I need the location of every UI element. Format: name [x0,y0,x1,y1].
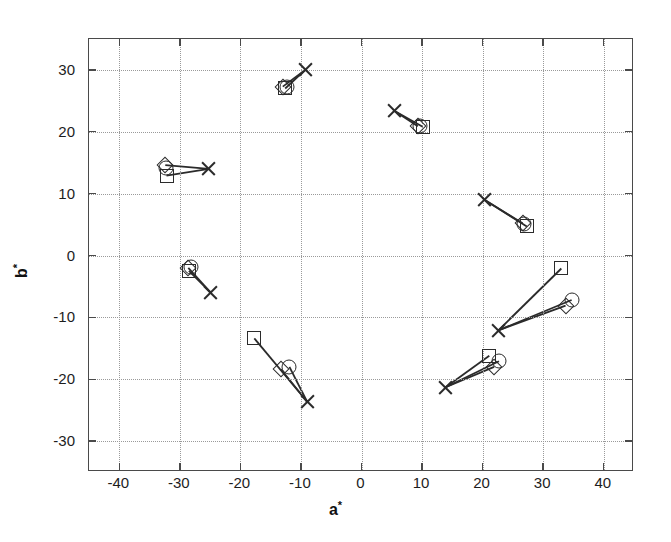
y-axis-tick [89,193,96,194]
data-point-x [202,284,219,301]
y-axis-tick [89,131,96,132]
x-axis-tick [421,463,422,470]
x-axis-tick [603,39,604,46]
x-tick-label: -20 [229,474,251,491]
y-axis-tick [625,193,632,194]
data-point-x [200,160,217,177]
data-point-square [247,331,261,345]
data-point-x [299,393,316,410]
y-tick-label: 0 [67,246,75,263]
x-axis-tick [361,39,362,46]
x-tick-label: -40 [107,474,129,491]
x-axis-tick [361,463,362,470]
data-point-x [386,102,403,119]
x-axis-tick [119,39,120,46]
x-axis-tick [421,39,422,46]
x-axis-tick [482,463,483,470]
y-axis-tick [625,131,632,132]
data-point-x [490,322,507,339]
y-axis-title: b* [11,264,31,278]
y-axis-title-star: * [11,264,23,268]
x-tick-label: 0 [356,474,364,491]
figure-canvas: a* b* -40-30-20-100102030403020100-10-20… [0,0,671,542]
y-axis-tick [625,317,632,318]
x-axis-title: a* [0,499,671,519]
x-axis-tick [240,463,241,470]
y-axis-tick [89,69,96,70]
y-tick-label: -10 [53,308,75,325]
y-axis-title-text: b [13,268,30,278]
y-tick-label: 30 [58,60,75,77]
x-axis-tick [542,39,543,46]
x-axis-tick [542,463,543,470]
connector-line [498,306,565,331]
x-axis-tick [482,39,483,46]
y-axis-tick [89,379,96,380]
x-axis-tick [240,39,241,46]
y-axis-tick [89,317,96,318]
x-axis-tick [179,39,180,46]
y-axis-tick [625,69,632,70]
x-axis-tick [119,463,120,470]
x-axis-tick [300,39,301,46]
x-tick-label: -30 [168,474,190,491]
x-axis-title-star: * [338,499,342,511]
y-tick-label: 10 [58,184,75,201]
y-tick-label: -20 [53,370,75,387]
data-point-square [554,261,568,275]
x-tick-label: 20 [473,474,490,491]
y-tick-label: -30 [53,432,75,449]
y-axis-tick [625,255,632,256]
data-point-x [476,191,493,208]
connector-line [498,268,561,330]
x-tick-label: 40 [594,474,611,491]
plot-area [88,38,633,471]
data-point-x [297,61,314,78]
x-axis-tick [603,463,604,470]
y-axis-tick [625,379,632,380]
y-tick-label: 20 [58,122,75,139]
y-axis-tick [89,440,96,441]
x-axis-tick [179,463,180,470]
x-axis-tick [300,463,301,470]
x-axis-title-text: a [329,501,338,518]
x-tick-label: -10 [289,474,311,491]
x-tick-label: 10 [413,474,430,491]
connector-lines [89,39,634,472]
x-tick-label: 30 [534,474,551,491]
data-point-x [437,379,454,396]
y-axis-tick [625,440,632,441]
y-axis-tick [89,255,96,256]
